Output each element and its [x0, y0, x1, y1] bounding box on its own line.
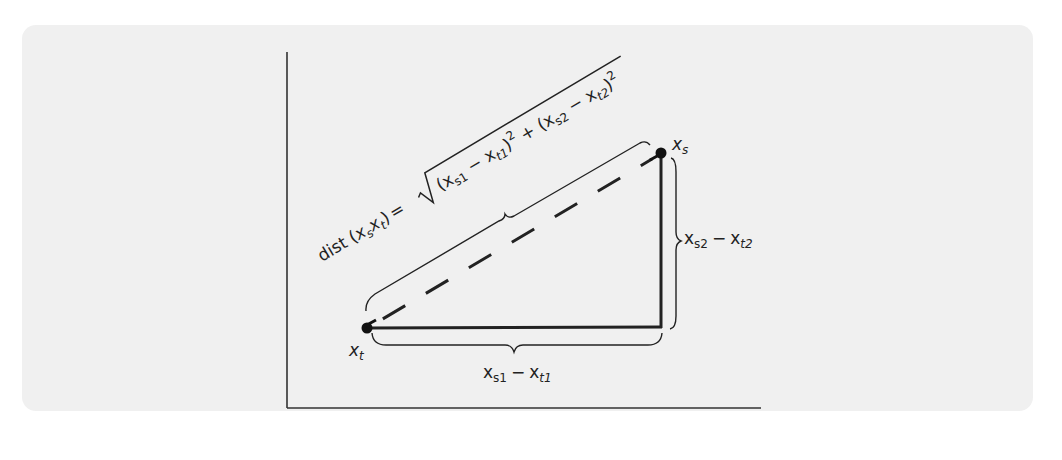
horizontal-brace [372, 333, 662, 352]
dashed-hypotenuse [376, 159, 652, 323]
label-x-s: xs [671, 134, 688, 157]
vertical-brace [670, 158, 681, 329]
label-horizontal-difference: xs1−xt1 [483, 362, 552, 385]
hypotenuse-brace [366, 142, 650, 311]
distance-diagram: xt xs xs1−xt1 xs2−xt2 dist(xsxt)= (xs1 −… [0, 0, 1062, 460]
page: xt xs xs1−xt1 xs2−xt2 dist(xsxt)= (xs1 −… [0, 0, 1062, 460]
formula-radicand: (xs1 − xt1)2 + (xs2 − xt2)2 [431, 68, 624, 198]
label-vertical-difference: xs2−xt2 [684, 228, 753, 251]
horizontal-leg [367, 327, 662, 328]
label-x-t: xt [348, 340, 365, 363]
formula-lhs: dist(xsxt)= [314, 198, 410, 268]
